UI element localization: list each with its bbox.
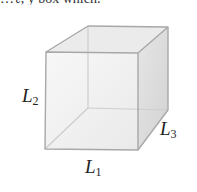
label-l1-subscript: 1: [96, 165, 102, 179]
label-l2-subscript: 2: [33, 94, 39, 108]
label-l2: L2: [22, 86, 39, 107]
label-l2-base: L: [22, 85, 33, 106]
label-l3-base: L: [160, 118, 171, 139]
label-l3-subscript: 3: [171, 127, 177, 141]
label-l1: L1: [85, 157, 102, 178]
label-l3: L3: [160, 119, 177, 140]
label-l1-base: L: [85, 156, 96, 177]
